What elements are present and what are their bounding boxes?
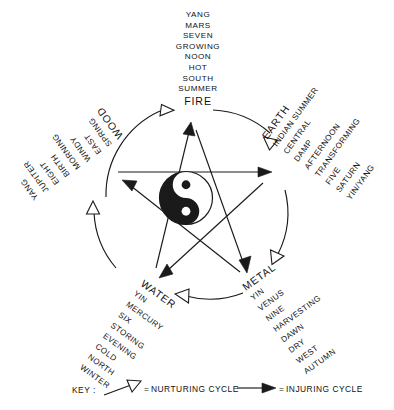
attribute-word: HARVESTING xyxy=(272,321,285,334)
attribute-word: TRANSFORMING xyxy=(314,166,327,179)
attribute-word: SPRING xyxy=(101,135,114,148)
five-element-diagram: KEY : = NURTURING CYCLE = INJURING CYCLE… xyxy=(0,0,394,410)
legend-injuring-label: INJURING CYCLE xyxy=(286,384,363,394)
node-label-metal: METAL xyxy=(242,279,255,292)
attribute-word: YIN xyxy=(132,289,145,302)
attribute-word: YANG xyxy=(148,10,248,21)
attribute-word: YANG xyxy=(27,189,40,202)
attribute-word: BIRTH xyxy=(59,166,72,179)
node-group-fire: YANG MARS SEVEN GROWING NOON HOT SOUTH S… xyxy=(148,10,248,106)
attribute-word: EVENING xyxy=(102,332,115,345)
injuring-arrowhead-metal xyxy=(239,256,251,273)
attribute-word: INDIAN SUMMER xyxy=(271,135,284,148)
attribute-word: SIX xyxy=(117,311,130,324)
attribute-word: WINTER xyxy=(79,363,92,376)
attribute-word: YIN xyxy=(249,289,262,302)
legend-nurturing-equals: = xyxy=(144,384,149,394)
nurturing-arrowhead-metal xyxy=(271,250,285,265)
node-label-water: WATER xyxy=(140,279,153,292)
attribute-word: SATURN xyxy=(335,181,348,194)
attribute-word: NOON xyxy=(148,52,248,63)
attribute-word: MARS xyxy=(148,21,248,32)
attribute-word: VENUS xyxy=(257,300,270,313)
nurturing-arc-metal-water xyxy=(186,293,243,299)
attribute-word: MERCURY xyxy=(125,300,138,313)
legend: KEY : = NURTURING CYCLE = INJURING CYCLE xyxy=(72,380,363,395)
attribute-word: EAST xyxy=(90,143,103,156)
legend-injuring-arrowhead xyxy=(262,383,276,393)
legend-nurturing-arrowhead xyxy=(127,380,141,392)
attribute-word: MORNING xyxy=(69,158,82,171)
attribute-word: YIN/YANG xyxy=(345,189,358,202)
legend-nurturing-label: NURTURING CYCLE xyxy=(151,384,239,394)
attribute-word: WEST xyxy=(295,353,308,366)
injuring-arrowhead-earth xyxy=(258,167,272,177)
attribute-word: SEVEN xyxy=(148,31,248,42)
attribute-word: GROWING xyxy=(148,42,248,53)
attribute-word: NORTH xyxy=(86,353,99,366)
attribute-word: DAWN xyxy=(280,332,293,345)
attribute-word: FIVE xyxy=(324,173,337,186)
attribute-word: JUPITER xyxy=(38,181,51,194)
injuring-arrowhead-water xyxy=(159,264,173,278)
nurturing-arrowhead-wood xyxy=(87,201,100,214)
attribute-word: COLD xyxy=(94,342,107,355)
node-label-wood: WOOD xyxy=(111,128,124,141)
nurturing-arc-earth-metal xyxy=(278,190,288,254)
attribute-word: AFTERNOON xyxy=(303,158,316,171)
attribute-word: DAMP xyxy=(293,150,306,163)
attribute-word: NINE xyxy=(264,311,277,324)
attribute-word: AUTUMN xyxy=(303,363,316,376)
attribute-word: SOUTH xyxy=(148,74,248,85)
legend-key-label: KEY : xyxy=(72,385,96,395)
node-label-earth: EARTH xyxy=(261,128,274,141)
legend-injuring-equals: = xyxy=(279,384,284,394)
yin-yang-icon xyxy=(160,172,213,225)
injuring-arrowhead-fire xyxy=(183,122,195,136)
attribute-word: SUMMER xyxy=(148,84,248,95)
node-label-fire: FIRE xyxy=(148,95,248,107)
attribute-word: WINDY xyxy=(80,150,93,163)
attribute-word: HOT xyxy=(148,63,248,74)
attribute-word: CENTRAL xyxy=(282,143,295,156)
attribute-word: EIGHT xyxy=(48,173,61,186)
attribute-word: DRY xyxy=(287,342,300,355)
nurturing-arc-water-wood xyxy=(94,212,116,268)
attribute-word: STORING xyxy=(109,321,122,334)
